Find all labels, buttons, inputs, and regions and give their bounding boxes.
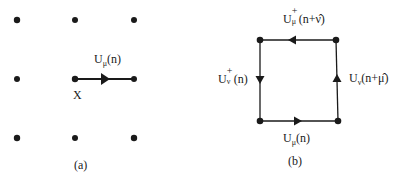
- label-superscript: +: [227, 66, 233, 76]
- link-label-left: U+ν(n): [218, 73, 248, 85]
- panel-b-lattice-sites: [257, 37, 342, 125]
- arrow-up-icon: [333, 74, 342, 82]
- label-superscript: +: [292, 6, 298, 16]
- link-label-right: Uν(n+μ̂): [349, 72, 389, 87]
- label-argument: (n): [107, 52, 121, 66]
- caption-a: (a): [74, 159, 87, 171]
- panel-a-link: [75, 73, 134, 85]
- label-argument: (n): [234, 72, 248, 86]
- caption-b: (b): [288, 155, 302, 167]
- lattice-diagram: Uμ(n) X (a) U+μ(n+ν̂) U+ν(n) Uν(n+μ̂) Uμ…: [0, 0, 397, 184]
- label-base: U: [349, 71, 358, 85]
- label-base: U: [283, 12, 292, 26]
- panel-b-plaquette: [260, 40, 338, 121]
- panel-b-arrows: [256, 36, 342, 126]
- link-label-u-mu-n: Uμ(n): [94, 53, 121, 68]
- link-label-bottom: Uμ(n): [283, 132, 310, 147]
- link-label-top: U+μ(n+ν̂): [283, 13, 325, 25]
- arrow-down-icon: [256, 76, 265, 84]
- label-base: U: [218, 72, 227, 86]
- label-argument: (n+ν̂): [299, 12, 325, 26]
- label-argument: (n+μ̂): [361, 71, 388, 85]
- label-subscript: ν: [227, 78, 231, 86]
- diagram-graphics: [0, 0, 397, 184]
- arrow-right-icon: [294, 117, 302, 126]
- arrow-right-icon: [101, 73, 110, 85]
- arrow-left-icon: [288, 36, 296, 45]
- site-label-x: X: [73, 89, 82, 101]
- label-base: U: [94, 52, 103, 66]
- label-subscript: μ: [292, 18, 296, 26]
- label-base: U: [283, 131, 292, 145]
- label-argument: (n): [296, 131, 310, 145]
